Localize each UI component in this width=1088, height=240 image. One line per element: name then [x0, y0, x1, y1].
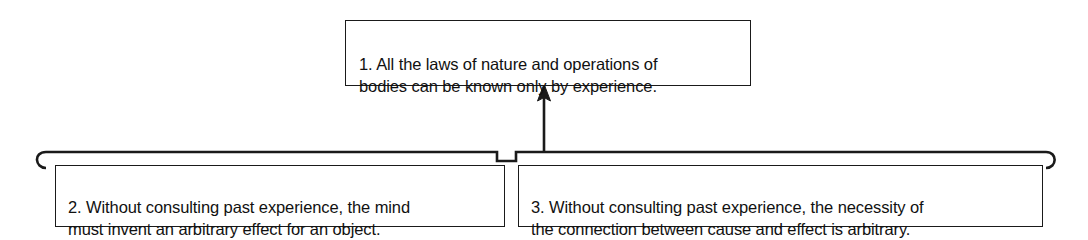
node-premise-3[interactable]: 3. Without consulting past experience, t… — [518, 165, 1043, 227]
node-premise-2-text: 2. Without consulting past experience, t… — [68, 196, 494, 240]
node-premise-2[interactable]: 2. Without consulting past experience, t… — [55, 165, 505, 227]
node-conclusion-1[interactable]: 1. All the laws of nature and operations… — [345, 20, 751, 86]
argument-map-diagram: 1. All the laws of nature and operations… — [0, 0, 1088, 240]
node-conclusion-1-text: 1. All the laws of nature and operations… — [359, 53, 739, 97]
node-premise-3-text: 3. Without consulting past experience, t… — [531, 196, 1032, 240]
